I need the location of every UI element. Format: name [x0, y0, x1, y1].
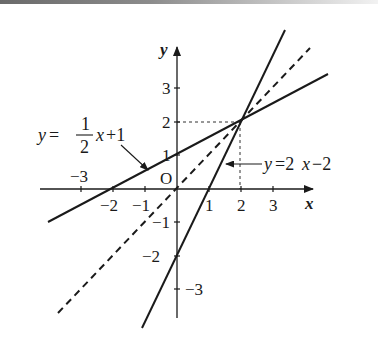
equation-label-half-x-plus-1: y = 1 2 x +1: [36, 114, 125, 157]
svg-text:=: =: [49, 125, 59, 145]
graph: x y O −3 −2 −1 1 2 3 3 2 1 −1 −2 −3 y = …: [0, 0, 378, 349]
x-tick-label: 3: [269, 196, 278, 215]
y-tick-label: −3: [185, 280, 203, 299]
y-tick-label: 3: [162, 79, 171, 98]
svg-text:y: y: [36, 125, 46, 145]
y-tick-label: −2: [142, 247, 160, 266]
equation-label-2x-minus-2: y =2 x −2: [262, 154, 331, 174]
eq1-pointer-arrow: [121, 145, 148, 170]
y-tick-label: −1: [152, 213, 170, 232]
svg-text:1: 1: [81, 114, 90, 134]
x-tick-label: 1: [205, 196, 214, 215]
svg-text:−2: −2: [312, 154, 331, 174]
svg-text:x: x: [301, 154, 310, 174]
svg-text:=2: =2: [275, 154, 294, 174]
svg-text:+1: +1: [106, 125, 125, 145]
x-tick-label: −3: [70, 167, 88, 186]
y-tick-label: 1: [162, 146, 171, 165]
svg-text:x: x: [95, 125, 104, 145]
x-tick-label: 2: [237, 196, 246, 215]
y-tick-label: 2: [162, 113, 171, 132]
y-axis-label: y: [158, 40, 168, 59]
svg-text:2: 2: [80, 137, 89, 157]
x-axis-label: x: [304, 194, 314, 213]
svg-text:y: y: [262, 154, 272, 174]
line-y-equals-x-dashed: [58, 48, 310, 313]
x-tick-label: −1: [132, 196, 150, 215]
origin-label: O: [160, 169, 172, 188]
line-half-x-plus-1: [48, 74, 328, 222]
x-tick-label: −2: [100, 196, 118, 215]
